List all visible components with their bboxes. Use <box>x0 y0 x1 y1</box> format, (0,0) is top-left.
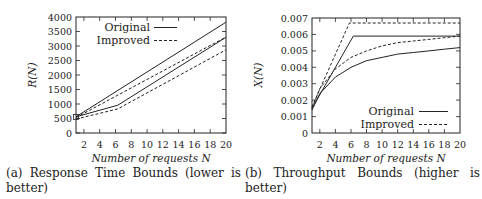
y-tick-label: 0 <box>302 128 308 139</box>
y-tick-label: 1500 <box>48 84 72 95</box>
x-tick-label: 16 <box>423 139 435 150</box>
y-tick-labels: 0 500 1000 1500 2000 2500 3000 3500 4000 <box>48 12 72 139</box>
legend-improved: Improved <box>361 118 414 131</box>
x-tick-label: 12 <box>157 139 169 150</box>
original-upper-line <box>312 36 460 108</box>
y-axis-label: X(N) <box>252 63 264 89</box>
improved-upper-line <box>312 23 460 107</box>
x-tick-label: 4 <box>332 139 338 150</box>
x-tick-label: 20 <box>454 139 466 150</box>
caption-right: (b) Throughput Bounds (higher is better) <box>245 166 480 196</box>
y-tick-label: 0.005 <box>281 45 308 56</box>
x-tick-label: 10 <box>376 139 388 150</box>
legend-original: Original <box>104 21 150 34</box>
y-tick-label: 0.007 <box>281 13 308 24</box>
legend: Original Improved <box>97 21 177 47</box>
legend-improved: Improved <box>97 34 150 47</box>
y-tick-label: 0.004 <box>281 62 308 73</box>
x-tick-label: 2 <box>317 139 323 150</box>
x-tick-labels: 2 4 6 8 10 12 14 16 18 20 <box>317 139 466 150</box>
y-tick-label: 0 <box>66 128 72 139</box>
y-tick-label: 0.001 <box>281 111 308 122</box>
x-tick-label: 6 <box>348 139 354 150</box>
y-tick-label: 2500 <box>48 55 72 66</box>
x-tick-label: 14 <box>407 139 419 150</box>
legend: Original Improved <box>361 105 448 131</box>
original-lower-line <box>312 48 460 110</box>
y-tick-label: 500 <box>54 113 72 124</box>
x-tick-label: 12 <box>392 139 404 150</box>
y-tick-label: 0.002 <box>281 95 308 106</box>
y-tick-label: 4000 <box>48 12 72 23</box>
y-tick-label: 3500 <box>48 26 72 37</box>
improved-lower-line <box>312 36 460 108</box>
x-tick-label: 8 <box>128 139 134 150</box>
x-tick-label: 4 <box>97 139 103 150</box>
y-tick-label: 0.006 <box>281 29 308 40</box>
legend-original: Original <box>368 105 414 118</box>
y-tick-label: 2000 <box>48 70 72 81</box>
x-axis-label: Number of requests N <box>90 152 211 164</box>
y-axis-label: R(N) <box>26 62 38 88</box>
series-lines <box>312 23 460 110</box>
x-axis-label: Number of requests N <box>325 152 446 164</box>
y-tick-labels: 0 0.001 0.002 0.003 0.004 0.005 0.006 0.… <box>281 13 308 139</box>
x-tick-label: 8 <box>363 139 369 150</box>
x-tick-label: 20 <box>220 139 232 150</box>
y-tick-label: 0.003 <box>281 78 308 89</box>
y-tick-label: 3000 <box>48 41 72 52</box>
y-tick-label: 1000 <box>48 99 72 110</box>
x-tick-label: 14 <box>173 139 185 150</box>
x-tick-label: 2 <box>81 139 87 150</box>
improved-upper-line <box>76 37 226 118</box>
chart-throughput: 0 0.001 0.002 0.003 0.004 0.005 0.006 0.… <box>252 13 466 165</box>
x-tick-label: 10 <box>141 139 153 150</box>
x-tick-label: 18 <box>204 139 216 150</box>
x-tick-label: 18 <box>438 139 450 150</box>
x-tick-label: 6 <box>112 139 118 150</box>
chart-response-time: 0 500 1000 1500 2000 2500 3000 3500 4000… <box>26 12 232 165</box>
x-tick-labels: 2 4 6 8 10 12 14 16 18 20 <box>81 139 232 150</box>
caption-left: (a) Response Time Bounds (lower is bette… <box>6 166 241 196</box>
x-tick-label: 16 <box>188 139 200 150</box>
